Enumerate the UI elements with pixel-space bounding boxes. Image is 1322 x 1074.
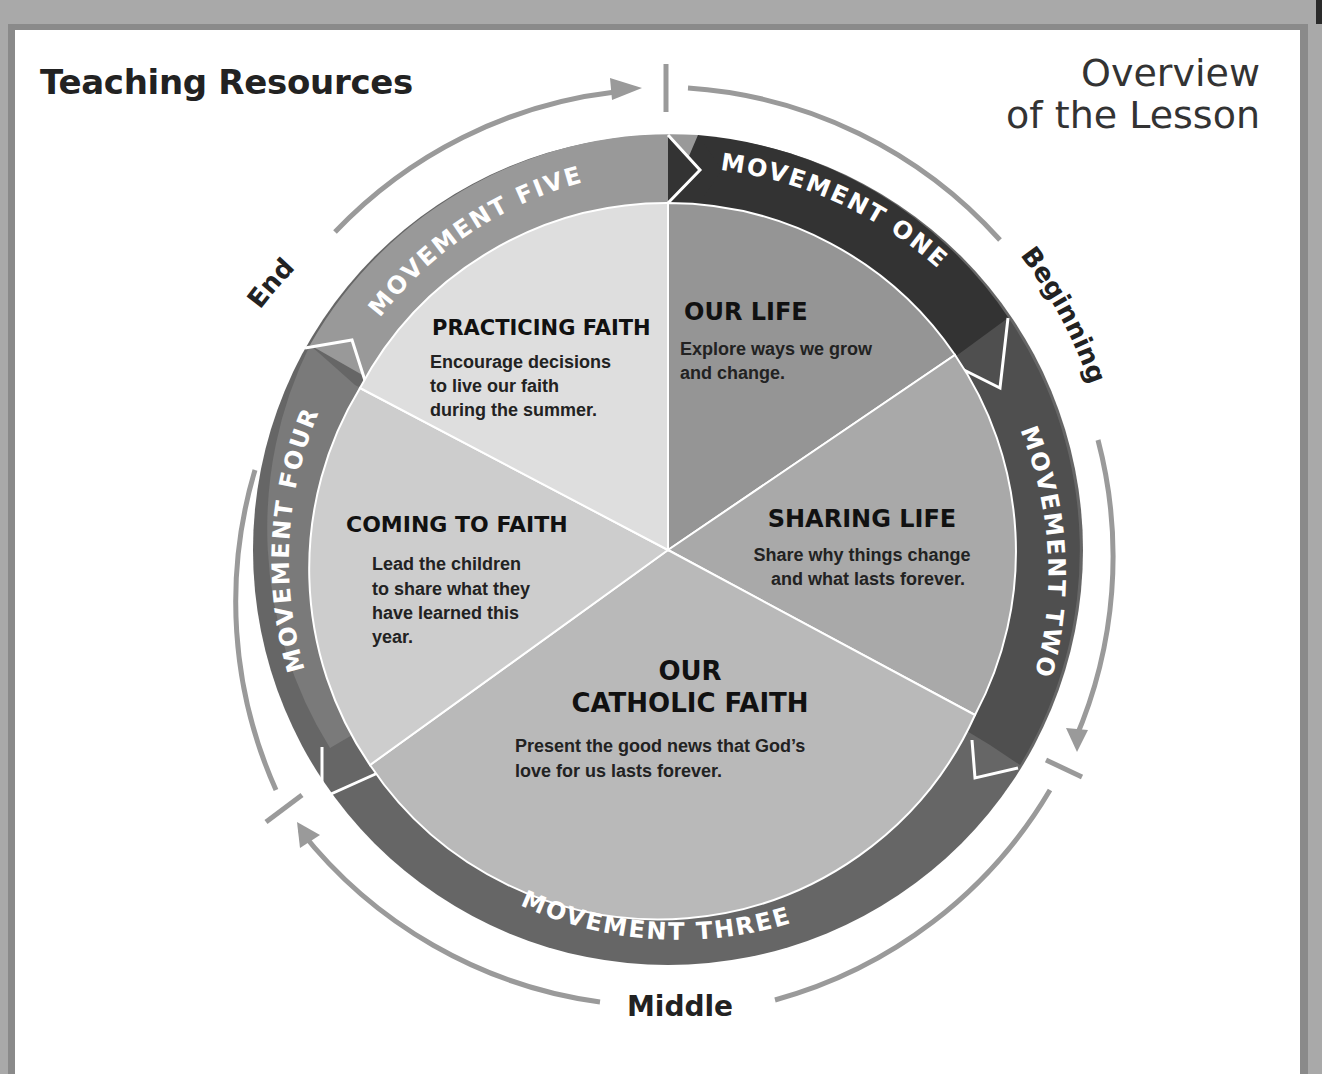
segment-coming-to-faith-line-1: Lead the children bbox=[372, 554, 521, 574]
segment-our-catholic-faith-title-1: OUR bbox=[658, 656, 721, 686]
segment-our-catholic-faith-line-2: love for us lasts forever. bbox=[515, 761, 722, 781]
segment-coming-to-faith-line-2: to share what they bbox=[372, 579, 530, 599]
segment-our-catholic-faith-line-1: Present the good news that God’s bbox=[515, 736, 805, 756]
phase-end-label: End bbox=[241, 252, 300, 314]
segment-our-life-title: OUR LIFE bbox=[684, 298, 808, 326]
segment-our-life-line-2: and change. bbox=[680, 363, 785, 383]
segment-sharing-life-line-2: and what lasts forever. bbox=[771, 569, 965, 589]
segment-practicing-faith-line-1: Encourage decisions bbox=[430, 352, 611, 372]
segment-practicing-faith-title: PRACTICING FAITH bbox=[432, 316, 651, 340]
arrowhead-top-icon bbox=[610, 78, 642, 100]
segment-practicing-faith-line-3: during the summer. bbox=[430, 400, 597, 420]
segment-our-catholic-faith-title-2: CATHOLIC FAITH bbox=[571, 688, 808, 718]
segment-sharing-life-title: SHARING LIFE bbox=[768, 505, 957, 533]
arrowhead-right-icon bbox=[1066, 728, 1088, 752]
segment-sharing-life-line-1: Share why things change bbox=[753, 545, 970, 565]
phase-middle-label: Middle bbox=[627, 990, 733, 1023]
segment-coming-to-faith-line-4: year. bbox=[372, 627, 413, 647]
tick-right bbox=[1046, 760, 1082, 777]
tick-left bbox=[266, 795, 302, 822]
segment-coming-to-faith-title: COMING TO FAITH bbox=[346, 512, 568, 537]
segment-coming-to-faith-line-3: have learned this bbox=[372, 603, 519, 623]
segment-our-life-line-1: Explore ways we grow bbox=[680, 339, 873, 359]
segment-practicing-faith-line-2: to live our faith bbox=[430, 376, 559, 396]
